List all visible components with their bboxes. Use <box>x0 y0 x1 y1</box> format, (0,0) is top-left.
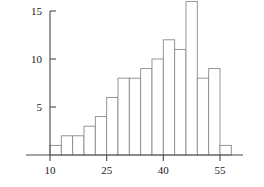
histogram-bar <box>118 78 129 155</box>
histogram-bar <box>73 136 84 155</box>
y-tick-label: 15 <box>31 5 43 17</box>
histogram-bar <box>175 49 186 155</box>
x-tick-label: 10 <box>45 164 57 176</box>
x-tick-label: 40 <box>158 164 170 176</box>
histogram-bar <box>95 117 106 155</box>
histogram-bar <box>84 126 95 155</box>
histogram-bar <box>197 78 208 155</box>
histogram-bar <box>163 40 174 155</box>
histogram-bar <box>152 59 163 155</box>
histogram-bar <box>107 97 118 155</box>
y-tick-label: 5 <box>37 101 43 113</box>
x-tick-label: 25 <box>101 164 113 176</box>
histogram-bar <box>61 136 72 155</box>
histogram-chart: 51015 10254055 <box>0 0 264 187</box>
x-tick-label: 55 <box>215 164 227 176</box>
histogram-bar <box>186 1 197 155</box>
histogram-bar <box>220 145 231 155</box>
y-tick-label: 10 <box>31 53 43 65</box>
histogram-bar <box>50 145 61 155</box>
histogram-svg: 51015 10254055 <box>0 0 264 187</box>
histogram-bar <box>141 69 152 155</box>
histogram-bar <box>209 69 220 155</box>
histogram-bar <box>129 78 140 155</box>
